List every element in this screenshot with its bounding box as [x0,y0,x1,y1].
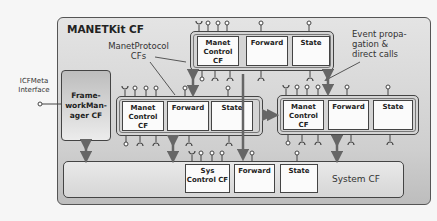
icf-meta-interface-icon [38,102,61,106]
connectors-overlay [0,0,437,221]
